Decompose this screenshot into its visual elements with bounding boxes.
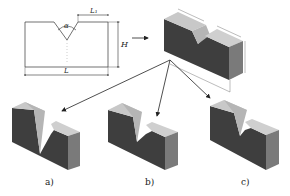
variant-a-model [12,102,80,170]
height-label: H [120,40,129,49]
caption-c: c) [241,177,250,187]
schematic-2d: α L₁ H L [25,7,129,76]
branch-arrows [62,60,210,116]
angle-label: α [64,22,69,30]
caption-a: a) [45,177,54,187]
top-width-label: L₁ [89,7,98,15]
figure-canvas: α L₁ H L [0,0,290,196]
arrow-to-a [62,60,170,111]
length-label: L [63,67,69,75]
reference-3d-model [164,9,245,92]
variant-c-model [210,100,279,170]
variant-b-model [108,103,178,170]
arrow-to-b [157,60,170,116]
caption-b: b) [145,177,154,187]
